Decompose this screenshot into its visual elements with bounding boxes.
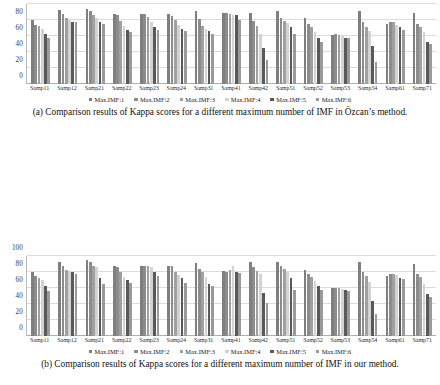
bar-group xyxy=(300,4,327,84)
bar xyxy=(86,9,89,84)
bar xyxy=(280,18,283,84)
panel-a-plot-wrap: 020406080100 xyxy=(0,4,440,84)
bar-group xyxy=(163,4,190,84)
bar xyxy=(259,34,262,84)
bar-group xyxy=(245,4,272,84)
bar xyxy=(89,11,92,84)
bar xyxy=(386,24,389,84)
bar xyxy=(71,22,74,84)
bar xyxy=(153,27,156,84)
bar xyxy=(184,31,187,84)
bar-group xyxy=(381,4,408,84)
bar xyxy=(317,38,320,84)
bar xyxy=(429,44,432,84)
x-tick-label: Samp23 xyxy=(135,85,162,91)
bar xyxy=(307,24,310,84)
bar xyxy=(252,21,255,84)
legend-swatch-icon xyxy=(270,98,274,102)
bar xyxy=(286,23,289,84)
bar xyxy=(129,32,132,84)
panel-a-y-axis: 020406080100 xyxy=(0,4,26,84)
bar xyxy=(235,15,238,84)
bar xyxy=(344,38,347,84)
bar xyxy=(113,14,116,84)
legend-label: Max.IMF:4 xyxy=(231,96,261,103)
bar-group xyxy=(54,4,81,84)
x-tick-label: Samp24 xyxy=(163,85,190,91)
bar xyxy=(229,14,232,84)
bar xyxy=(304,18,307,84)
bar xyxy=(290,27,293,84)
bar xyxy=(174,20,177,84)
panel-a-caption: (a) Comparison results of Kappa scores f… xyxy=(0,107,440,117)
bar-group xyxy=(136,4,163,84)
bar-group xyxy=(82,4,109,84)
legend-item[interactable]: Max.IMF:3 xyxy=(180,96,215,103)
legend-label: Max.IMF:3 xyxy=(185,96,215,103)
bar xyxy=(314,32,317,84)
bar xyxy=(211,34,214,84)
bar xyxy=(181,29,184,84)
bar-group xyxy=(272,4,299,84)
legend-item[interactable]: Max.IMF:1 xyxy=(89,96,124,103)
x-tick-label: Samp22 xyxy=(108,85,135,91)
legend-swatch-icon xyxy=(89,98,93,102)
bar xyxy=(95,18,98,84)
bar xyxy=(31,20,34,84)
legend-item[interactable]: Max.IMF:6 xyxy=(316,96,351,103)
bar xyxy=(293,34,296,84)
bar-group xyxy=(27,4,54,84)
bar xyxy=(177,25,180,84)
bar xyxy=(276,11,279,84)
bar xyxy=(198,19,201,84)
bar xyxy=(402,30,405,84)
bar xyxy=(147,17,150,84)
bar xyxy=(375,62,378,84)
legend-item[interactable]: Max.IMF:2 xyxy=(134,96,169,103)
bar xyxy=(44,34,47,84)
x-tick-label: Samp61 xyxy=(381,85,408,91)
bar xyxy=(126,30,129,84)
legend-label: Max.IMF:1 xyxy=(94,96,124,103)
bar xyxy=(368,31,371,84)
legend-label: Max.IMF:6 xyxy=(322,96,352,103)
bar xyxy=(47,38,50,84)
bar-group xyxy=(191,4,218,84)
legend-label: Max.IMF:2 xyxy=(140,96,170,103)
bar xyxy=(65,18,68,84)
bar xyxy=(338,35,341,84)
y-tick-label: 0 xyxy=(19,72,23,80)
bar xyxy=(68,20,71,84)
x-tick-label: Samp42 xyxy=(245,85,272,91)
bar xyxy=(38,26,41,84)
x-tick-label: Samp11 xyxy=(26,85,53,91)
y-tick-label: 100 xyxy=(12,244,23,252)
y-tick-label: 20 xyxy=(16,56,23,64)
panel-b: 020406080100 Samp11Samp12Samp21Samp22Sam… xyxy=(0,124,440,252)
bar xyxy=(34,25,37,84)
bar-group xyxy=(218,4,245,84)
bar xyxy=(283,21,286,84)
y-tick-label: 80 xyxy=(16,8,23,16)
bar xyxy=(399,27,402,84)
legend-swatch-icon xyxy=(225,98,229,102)
bar xyxy=(208,31,211,84)
bar-group xyxy=(109,4,136,84)
bar xyxy=(262,48,265,84)
bar-group xyxy=(354,4,381,84)
y-tick-label: 40 xyxy=(16,40,23,48)
x-tick-label: Samp41 xyxy=(217,85,244,91)
panel-a: 020406080100 Samp11Samp12Samp21Samp22Sam… xyxy=(0,0,440,124)
panel-a-legend: Max.IMF:1Max.IMF:2Max.IMF:3Max.IMF:4Max.… xyxy=(0,96,440,103)
legend-item[interactable]: Max.IMF:5 xyxy=(270,96,305,103)
bar xyxy=(419,27,422,84)
bar xyxy=(423,32,426,84)
bar xyxy=(392,22,395,84)
bar xyxy=(102,24,105,84)
bar-group xyxy=(327,4,354,84)
bar-group xyxy=(409,4,436,84)
bar xyxy=(347,38,350,84)
legend-item[interactable]: Max.IMF:4 xyxy=(225,96,260,103)
bar xyxy=(389,22,392,84)
bar xyxy=(266,60,269,84)
